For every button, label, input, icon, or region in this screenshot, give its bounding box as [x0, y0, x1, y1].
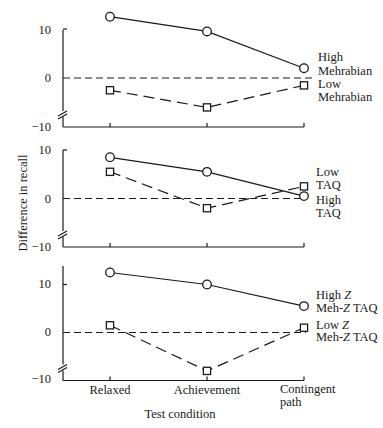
- plot-area-taq: [58, 150, 308, 247]
- square-marker-icon: [106, 87, 113, 94]
- x-tick-relaxed: Relaxed: [90, 383, 132, 397]
- y-tick-10: 10: [39, 23, 52, 37]
- series-line: [110, 17, 304, 68]
- square-marker-icon: [300, 183, 307, 190]
- series-label-low-mehrabian-2: Mehrabian: [318, 90, 373, 104]
- panel-taq: 10 0 −10 Low TAQ High TAQ: [31, 143, 341, 254]
- label-part: High: [316, 288, 344, 302]
- series-label-low-taq: Low: [316, 165, 339, 179]
- series-label-high-taq-2: TAQ: [316, 206, 341, 220]
- circle-marker-icon: [300, 302, 309, 311]
- y-tick-minus-10: −10: [31, 240, 51, 254]
- series-label-low-mehrabian: Low: [318, 77, 341, 91]
- series-label-high-z: High Z: [316, 288, 352, 302]
- x-tick-achievement: Achievement: [174, 383, 241, 397]
- label-part: TAQ: [350, 330, 378, 344]
- y-tick-10: 10: [39, 143, 52, 157]
- y-tick-0: 0: [45, 192, 51, 206]
- y-tick-0: 0: [45, 71, 51, 85]
- square-marker-icon: [203, 367, 210, 374]
- circle-marker-icon: [203, 27, 212, 36]
- circle-marker-icon: [300, 64, 309, 73]
- square-marker-icon: [203, 104, 210, 111]
- circle-marker-icon: [106, 153, 115, 162]
- panel-meh-z-taq: 10 0 −10 High Z Meh-Z TAQ Low Z Meh-Z TA…: [31, 266, 377, 386]
- series-line: [110, 172, 304, 208]
- x-axis-label: Test condition: [145, 407, 217, 421]
- circle-marker-icon: [106, 12, 115, 21]
- circle-marker-icon: [203, 280, 212, 289]
- series-label-high-z-2: Meh-Z TAQ: [316, 301, 378, 315]
- square-marker-icon: [106, 168, 113, 175]
- label-part: TAQ: [350, 301, 378, 315]
- square-marker-icon: [300, 82, 307, 89]
- square-marker-icon: [300, 324, 307, 331]
- y-axis-label: Difference in recall: [16, 154, 30, 251]
- circle-marker-icon: [106, 268, 115, 277]
- plot-area-mehrabian: [58, 12, 312, 127]
- circle-marker-icon: [203, 168, 212, 177]
- plot-area-meh-z-taq: [58, 266, 308, 381]
- series-label-high-mehrabian: High: [318, 50, 344, 64]
- square-marker-icon: [106, 322, 113, 329]
- y-tick-10: 10: [39, 277, 52, 291]
- label-part: Meh-: [316, 301, 343, 315]
- recall-difference-chart: Difference in recall 10 0 −10 High Mehra…: [0, 0, 383, 428]
- series-label-high-mehrabian-2: Mehrabian: [318, 64, 373, 78]
- y-tick-minus-10: −10: [31, 372, 51, 386]
- series-label-low-taq-2: TAQ: [316, 178, 341, 192]
- series-label-high-taq: High: [316, 193, 342, 207]
- square-marker-icon: [203, 205, 210, 212]
- y-tick-minus-10: −10: [31, 120, 51, 134]
- x-tick-contingent-path: Contingent: [280, 382, 336, 396]
- panel-mehrabian: 10 0 −10 High Mehrabian Low Mehrabian: [31, 12, 372, 134]
- series-label-low-z-2: Meh-Z TAQ: [316, 330, 378, 344]
- label-part: Meh-: [316, 330, 343, 344]
- x-tick-contingent-path-2: path: [280, 395, 302, 409]
- circle-marker-icon: [300, 192, 309, 201]
- y-tick-0: 0: [45, 325, 51, 339]
- label-part-italic: Z: [344, 288, 352, 302]
